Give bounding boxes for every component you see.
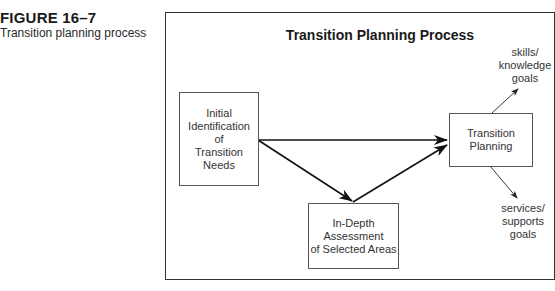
edge-planning-to-skills [492,89,518,113]
node-transition-planning-label: Transition Planning [467,127,515,153]
output-skills-goals: skills/ knowledge goals [497,46,553,85]
edge-planning-to-services [490,166,517,198]
node-transition-planning: Transition Planning [449,113,533,167]
output-services-goals: services/ supports goals [498,202,548,241]
edge-initial-to-indepth [258,140,352,201]
node-initial-identification: Initial Identification of Transition Nee… [179,92,259,186]
node-in-depth-assessment: In-Depth Assessment of Selected Areas [308,203,399,269]
node-initial-identification-label: Initial Identification of Transition Nee… [188,107,250,172]
edge-indepth-to-planning [353,145,447,202]
node-in-depth-assessment-label: In-Depth Assessment of Selected Areas [310,217,396,256]
